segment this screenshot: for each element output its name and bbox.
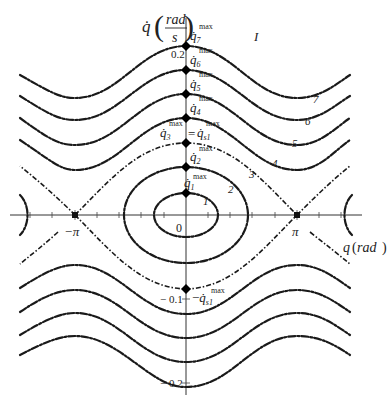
svg-text:−q̇s1: −q̇s1	[192, 290, 213, 307]
svg-text:max: max	[193, 172, 207, 181]
svg-text:max: max	[199, 144, 213, 153]
curve-label-5: 5	[292, 137, 298, 149]
x-tick-pi: π	[292, 224, 299, 239]
separatrix-left-outer-up	[20, 166, 75, 215]
svg-text:max: max	[199, 22, 213, 31]
rotating-orbits-upper	[20, 46, 350, 170]
svg-text:max: max	[211, 286, 225, 295]
phase-portrait-chart: q̇ ( rad s ) I 0.2 − 0.1 − 0.2 −π 0 π q …	[0, 0, 390, 408]
svg-text:max: max	[169, 119, 183, 128]
region-label-I: I	[253, 29, 259, 44]
y-tick-neg-0.2: − 0.2	[160, 377, 183, 389]
svg-text:q: q	[343, 240, 350, 255]
svg-text:q̇: q̇	[142, 17, 151, 36]
curve-label-3: 3	[248, 168, 255, 180]
curve-label-1: 1	[203, 195, 209, 207]
y-tick-neg-0.1: − 0.1	[160, 293, 183, 305]
curve-label-6: 6	[305, 115, 311, 127]
svg-text:): )	[382, 240, 387, 256]
point-labels: q̇7 max q̇6 max q̇5 max q̇4 max q̇3 max …	[160, 22, 225, 307]
separatrix-left-outer-down	[20, 232, 58, 264]
curve-label-2: 2	[228, 183, 234, 195]
svg-text:max: max	[199, 94, 213, 103]
svg-text:rad: rad	[357, 240, 377, 255]
y-axis-label: q̇ ( rad s )	[142, 9, 194, 45]
svg-text:max: max	[199, 46, 213, 55]
saddle-point-neg-pi	[72, 212, 78, 218]
x-tick-neg-pi: −π	[64, 224, 80, 239]
svg-text:max: max	[206, 119, 220, 128]
svg-text:max: max	[199, 70, 213, 79]
svg-text:s: s	[172, 30, 178, 45]
saddle-point-pi	[294, 212, 300, 218]
x-axis-label: q ( rad )	[343, 240, 387, 256]
y-tick-0.2: 0.2	[171, 48, 185, 60]
svg-text:(: (	[154, 9, 164, 43]
separatrix-right-outer-up	[297, 166, 350, 215]
curve-label-7: 7	[313, 93, 319, 105]
svg-text:=: =	[188, 126, 195, 141]
rotating-orbits-lower	[20, 265, 350, 387]
x-tick-zero: 0	[176, 221, 182, 235]
curve-label-4: 4	[272, 157, 278, 169]
